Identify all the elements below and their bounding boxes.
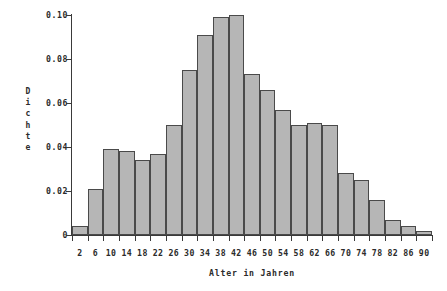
histogram-bar [182, 70, 198, 235]
x-axis-tick-mark [244, 235, 245, 241]
y-axis-title-letter: h [21, 120, 35, 131]
y-axis-tick-labels: 00.020.040.060.080.10 [34, 0, 68, 291]
histogram-bar [385, 220, 401, 235]
histogram-bar [135, 160, 151, 235]
x-axis-tick-mark [103, 235, 104, 241]
y-axis-tick-mark [66, 147, 72, 148]
histogram-bar [103, 149, 119, 235]
y-axis-tick-label: 0.06 [36, 98, 68, 108]
histogram-bar [307, 123, 323, 235]
y-axis-title-letter: i [21, 97, 35, 108]
x-axis-tick-mark [432, 235, 433, 241]
x-axis-tick-mark [119, 235, 120, 241]
x-axis-tick-mark [401, 235, 402, 241]
x-axis-tick-mark [385, 235, 386, 241]
x-axis-tick-labels: 2610141822263034384246505458626670747882… [72, 248, 432, 262]
y-axis-tick-mark [66, 59, 72, 60]
y-axis-tick-mark [66, 15, 72, 16]
y-axis-title-letter: e [21, 142, 35, 153]
y-axis-title: Dichte [21, 86, 35, 153]
histogram-bar [244, 74, 260, 235]
y-axis-tick-mark [66, 103, 72, 104]
histogram-bar [291, 125, 307, 235]
y-axis-title-letter: D [21, 86, 35, 97]
x-axis-tick-mark [135, 235, 136, 241]
histogram-bar [260, 90, 276, 235]
histogram-bar [72, 226, 88, 235]
histogram-bars [72, 15, 432, 235]
histogram-bar [369, 200, 385, 235]
histogram-bar [322, 125, 338, 235]
histogram-bar [166, 125, 182, 235]
histogram-bar [338, 173, 354, 235]
x-axis-tick-mark [182, 235, 183, 241]
histogram-bar [416, 231, 432, 235]
x-axis-tick-mark [307, 235, 308, 241]
x-axis-tick-mark [150, 235, 151, 241]
histogram-bar [119, 151, 135, 235]
y-axis-tick-label: 0.04 [36, 142, 68, 152]
x-axis-tick-mark [369, 235, 370, 241]
y-axis-tick-label: 0 [36, 230, 68, 240]
x-axis-tick-mark [338, 235, 339, 241]
x-axis-tick-mark [166, 235, 167, 241]
x-axis-tick-mark [260, 235, 261, 241]
x-axis-tick-label: 90 [412, 248, 436, 258]
x-axis-tick-mark [72, 235, 73, 241]
y-axis-tick-mark [66, 191, 72, 192]
y-axis-tick-label: 0.02 [36, 186, 68, 196]
y-axis-tick-label: 0.08 [36, 54, 68, 64]
x-axis-tick-mark [416, 235, 417, 241]
x-axis-tick-mark [88, 235, 89, 241]
histogram-bar [213, 17, 229, 235]
histogram-bar [401, 226, 417, 235]
histogram-bar [197, 35, 213, 235]
histogram-bar [275, 110, 291, 235]
x-axis-line [71, 235, 433, 236]
x-axis-tick-mark [197, 235, 198, 241]
histogram-bar [150, 154, 166, 235]
histogram-bar [354, 180, 370, 235]
histogram-bar [88, 189, 104, 235]
x-axis-tick-mark [291, 235, 292, 241]
x-axis-tick-mark [322, 235, 323, 241]
y-axis-title-letter: c [21, 108, 35, 119]
histogram-bar [229, 15, 245, 235]
x-axis-tick-mark [213, 235, 214, 241]
y-axis-title-letter: t [21, 131, 35, 142]
x-axis-tick-mark [275, 235, 276, 241]
histogram-figure: Dichte 00.020.040.060.080.10 26101418222… [0, 0, 447, 291]
x-axis-tick-mark [354, 235, 355, 241]
y-axis-tick-label: 0.10 [36, 10, 68, 20]
x-axis-title: Alter in Jahren [72, 268, 432, 278]
x-axis-tick-mark [229, 235, 230, 241]
plot-area [72, 15, 432, 235]
